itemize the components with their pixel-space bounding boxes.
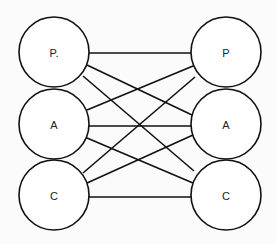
edges-group xyxy=(83,53,195,197)
node-right-a: A xyxy=(191,89,261,159)
node-label: P. xyxy=(50,47,59,59)
node-label: C xyxy=(50,190,58,202)
left-nodes-group: P. A C xyxy=(19,17,89,230)
right-nodes-group: P A C xyxy=(191,17,261,230)
node-label: A xyxy=(50,119,58,131)
bipartite-diagram: P. A C P A C xyxy=(0,0,277,244)
node-label: C xyxy=(222,190,230,202)
node-left-p: P. xyxy=(19,17,89,87)
node-left-c: C xyxy=(19,160,89,230)
node-right-p: P xyxy=(191,17,261,87)
node-label: A xyxy=(222,119,230,131)
node-label: P xyxy=(222,47,229,59)
node-right-c: C xyxy=(191,160,261,230)
node-left-a: A xyxy=(19,89,89,159)
